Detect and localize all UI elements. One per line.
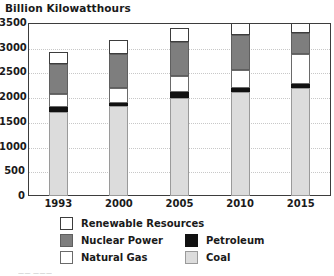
- legend-swatch-natural_gas: [60, 251, 73, 264]
- x-tick-label-2005: 2005: [166, 198, 194, 210]
- gridline-2000: [29, 98, 330, 99]
- footer-note: —— ———: [18, 269, 52, 276]
- plot-area: [28, 23, 331, 196]
- y-tick-label-1000: 1000: [0, 142, 25, 152]
- legend-label-coal: Coal: [206, 251, 230, 264]
- x-tick-label-2000: 2000: [105, 198, 133, 210]
- stacked-bar-chart: Billion Kilowatthours 050010001500200025…: [0, 0, 334, 276]
- legend-item-natural_gas[interactable]: Natural Gas: [60, 250, 148, 265]
- legend-label-renewable: Renewable Resources: [81, 217, 204, 230]
- x-tick-label-2010: 2010: [226, 198, 254, 210]
- gridline-1500: [29, 123, 330, 124]
- y-tick-label-2000: 2000: [0, 92, 25, 102]
- legend-swatch-nuclear: [60, 234, 73, 247]
- x-tick-label-1993: 1993: [44, 198, 72, 210]
- gridline-500: [29, 172, 330, 173]
- y-tick-label-3000: 3000: [0, 43, 25, 53]
- x-axis: 19932000200520102015: [28, 198, 331, 212]
- x-tick-label-2015: 2015: [287, 198, 315, 210]
- legend-label-nuclear: Nuclear Power: [81, 234, 163, 247]
- legend-swatch-renewable: [60, 217, 73, 230]
- y-tick-label-3500: 3500: [0, 18, 25, 28]
- y-tick-label-0: 0: [0, 191, 25, 201]
- legend-item-petroleum[interactable]: Petroleum: [185, 233, 264, 248]
- legend-swatch-coal: [185, 251, 198, 264]
- legend-item-coal[interactable]: Coal: [185, 250, 230, 265]
- legend-label-natural_gas: Natural Gas: [81, 251, 148, 264]
- legend-item-nuclear[interactable]: Nuclear Power: [60, 233, 163, 248]
- chart-title: Billion Kilowatthours: [5, 2, 131, 14]
- y-axis: 0500100015002000250030003500: [0, 23, 25, 196]
- legend-label-petroleum: Petroleum: [206, 234, 264, 247]
- y-tick-label-1500: 1500: [0, 117, 25, 127]
- gridline-3000: [29, 49, 330, 50]
- legend-swatch-petroleum: [185, 234, 198, 247]
- y-tick-label-500: 500: [0, 166, 25, 176]
- gridline-1000: [29, 148, 330, 149]
- gridline-2500: [29, 73, 330, 74]
- y-tick-label-2500: 2500: [0, 67, 25, 77]
- legend-item-renewable[interactable]: Renewable Resources: [60, 216, 204, 231]
- chart-legend: Renewable ResourcesNuclear PowerNatural …: [60, 216, 330, 264]
